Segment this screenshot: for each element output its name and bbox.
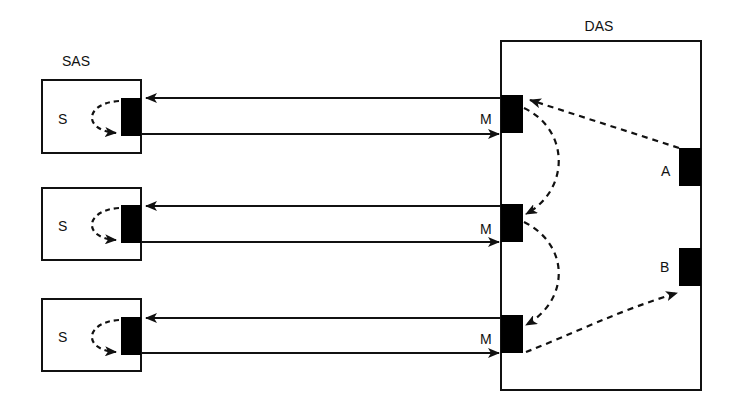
port-a-label: A	[661, 163, 671, 179]
master-port-2	[501, 204, 523, 242]
master-port-3	[501, 315, 523, 353]
sas-title: SAS	[62, 53, 90, 69]
master-label-2: M	[480, 221, 492, 237]
slave-loopback-3	[92, 320, 119, 352]
port-b-label: B	[660, 259, 669, 275]
dashed-path-m2-to-m3	[524, 222, 559, 325]
slave-label-1: S	[58, 111, 67, 127]
slave-loopback-1	[92, 101, 119, 133]
port-a	[679, 148, 701, 186]
das-unit: DAS M M M A B	[480, 18, 701, 390]
slave-port-2	[121, 205, 141, 243]
slave-port-1	[121, 98, 141, 136]
slave-label-2: S	[58, 218, 67, 234]
master-port-1	[501, 95, 523, 133]
das-sas-diagram: DAS M M M A B SAS S S	[0, 0, 737, 408]
slave-loopback-2	[92, 208, 119, 240]
dashed-path-m1-to-m2	[524, 108, 559, 214]
sas-unit-3: S	[42, 299, 501, 371]
master-label-1: M	[480, 111, 492, 127]
slave-label-3: S	[58, 329, 67, 345]
sas-unit-2: S	[42, 188, 501, 260]
slave-port-3	[121, 317, 141, 355]
dashed-path-a-to-m1	[530, 100, 679, 148]
dashed-path-m3-to-b	[526, 293, 677, 352]
sas-unit-1: S	[42, 80, 501, 153]
das-title: DAS	[585, 18, 614, 34]
port-b	[679, 248, 701, 286]
master-label-3: M	[480, 331, 492, 347]
